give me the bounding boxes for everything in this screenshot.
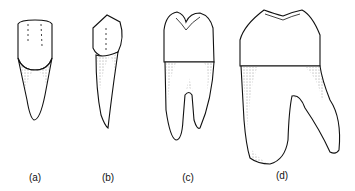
teeth-diagram bbox=[0, 0, 355, 191]
tooth-d-molar bbox=[240, 10, 340, 164]
label-d: (d) bbox=[276, 170, 288, 181]
label-c: (c) bbox=[182, 172, 194, 183]
tooth-a-incisor bbox=[18, 20, 52, 120]
tooth-b-canine bbox=[93, 15, 122, 128]
tooth-c-premolar bbox=[164, 12, 214, 140]
label-b: (b) bbox=[102, 172, 114, 183]
label-a: (a) bbox=[29, 172, 41, 183]
